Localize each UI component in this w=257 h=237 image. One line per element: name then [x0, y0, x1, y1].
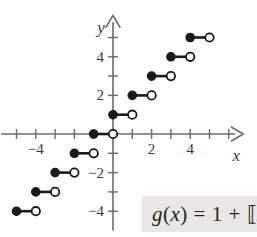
step-segment	[70, 149, 98, 157]
axis-ticks	[17, 38, 229, 212]
x-tick-label: 4	[186, 141, 194, 157]
open-endpoint-circle	[109, 130, 117, 138]
open-endpoint-circle	[32, 207, 40, 215]
step-function-figure: −42442−2−4 xy g(x) = 1 + ⟦x⟧	[0, 0, 257, 237]
closed-endpoint-dot	[109, 111, 117, 119]
x-tick-label: −4	[28, 141, 44, 157]
closed-endpoint-dot	[128, 91, 136, 99]
closed-endpoint-dot	[90, 130, 98, 138]
open-endpoint-circle	[186, 53, 194, 61]
axis-name-labels: xy	[95, 18, 240, 165]
x-axis-label: x	[231, 146, 240, 165]
open-endpoint-circle	[128, 111, 136, 119]
y-axis-label: y	[95, 18, 105, 37]
open-endpoint-circle	[51, 188, 59, 196]
step-segment	[167, 53, 195, 61]
closed-endpoint-dot	[12, 207, 20, 215]
closed-endpoint-dot	[32, 188, 40, 196]
step-segment	[90, 130, 118, 138]
open-endpoint-circle	[205, 33, 213, 41]
closed-endpoint-dot	[147, 72, 155, 80]
open-endpoint-circle	[70, 168, 78, 176]
step-segment	[186, 33, 214, 41]
y-tick-label: −2	[88, 165, 104, 181]
equation-label: g(x) = 1 + ⟦x⟧	[152, 199, 257, 229]
x-tick-label: 2	[148, 141, 156, 157]
y-tick-label: 2	[97, 87, 105, 103]
step-segment	[12, 207, 40, 215]
step-segment	[109, 111, 137, 119]
open-endpoint-circle	[90, 149, 98, 157]
step-segment	[128, 91, 156, 99]
step-segment	[51, 168, 79, 176]
open-endpoint-circle	[167, 72, 175, 80]
closed-endpoint-dot	[51, 168, 59, 176]
closed-endpoint-dot	[167, 53, 175, 61]
step-segment	[32, 188, 60, 196]
open-endpoint-circle	[147, 91, 155, 99]
closed-endpoint-dot	[186, 33, 194, 41]
y-tick-label: 4	[97, 49, 105, 65]
closed-endpoint-dot	[70, 149, 78, 157]
step-segment	[147, 72, 175, 80]
y-tick-label: −4	[88, 203, 104, 219]
